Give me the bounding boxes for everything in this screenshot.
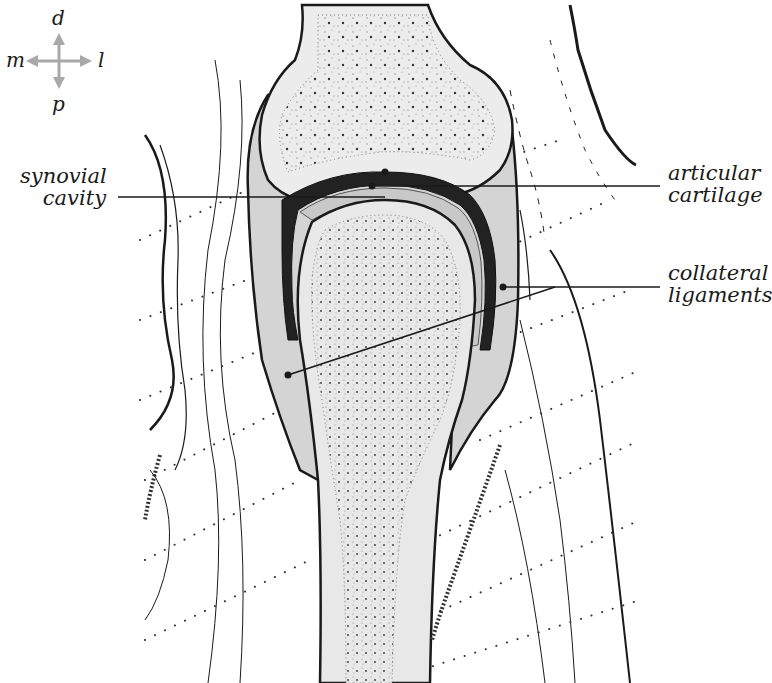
arrow-up-icon <box>53 33 65 45</box>
label-articular-cartilage: articular cartilage <box>668 162 763 206</box>
arrow-right-icon <box>80 55 92 67</box>
medial-stippled-strip <box>145 455 160 520</box>
arrow-left-icon <box>26 55 38 67</box>
compass-dorsal-label: d <box>52 6 65 30</box>
compass-medial-label: m <box>6 48 25 72</box>
label-collateral-ligaments-line2: ligaments <box>668 284 772 306</box>
arrow-down-icon <box>53 77 65 89</box>
label-articular-cartilage-line1: articular <box>668 162 763 184</box>
label-articular-cartilage-line2: cartilage <box>668 184 763 206</box>
label-synovial-cavity-line1: synovial <box>20 165 106 187</box>
label-synovial-cavity: synovial cavity <box>20 165 106 209</box>
compass-lateral-label: l <box>98 48 104 72</box>
label-collateral-ligaments: collateral ligaments <box>668 262 772 306</box>
orientation-compass <box>26 33 92 89</box>
label-collateral-ligaments-line1: collateral <box>668 262 772 284</box>
compass-proximal-label: p <box>52 92 65 116</box>
label-synovial-cavity-line2: cavity <box>20 187 106 209</box>
